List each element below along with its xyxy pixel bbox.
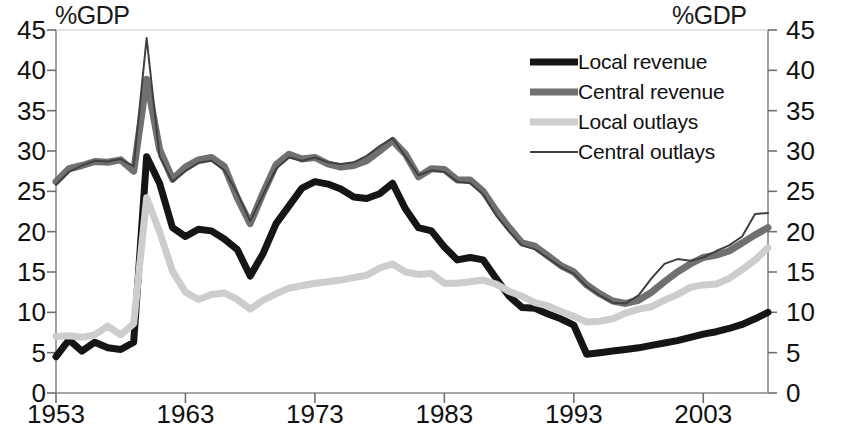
gdp-line-chart: %GDP %GDP 051015202530354045 05101520253…: [0, 0, 846, 433]
legend-item-local-outlays: Local outlays: [528, 110, 724, 134]
y-axis-tick-5: 5: [0, 340, 46, 366]
legend-label: Central revenue: [578, 80, 724, 104]
legend-label: Local outlays: [578, 110, 698, 134]
line-swatch-icon: [528, 115, 578, 129]
y2-axis-tick-35: 35: [786, 98, 832, 124]
y2-axis-tick-40: 40: [786, 57, 832, 83]
y-axis-tick-10: 10: [0, 299, 46, 325]
legend-label: Central outlays: [578, 140, 715, 164]
y-axis-tick-15: 15: [0, 259, 46, 285]
x-axis-tick-1953: 1953: [11, 401, 101, 427]
legend-label: Local revenue: [578, 50, 707, 74]
x-axis-tick-2003: 2003: [658, 401, 748, 427]
x-axis-tick-1963: 1963: [140, 401, 230, 427]
y-axis-tick-45: 45: [0, 17, 46, 43]
y2-axis-tick-45: 45: [786, 17, 832, 43]
y2-axis-tick-20: 20: [786, 219, 832, 245]
y2-axis-tick-0: 0: [786, 380, 832, 406]
y2-axis-tick-15: 15: [786, 259, 832, 285]
line-swatch-icon: [528, 85, 578, 99]
y-axis-tick-40: 40: [0, 57, 46, 83]
y-axis-tick-20: 20: [0, 219, 46, 245]
x-axis-tick-1973: 1973: [270, 401, 360, 427]
y-axis-tick-35: 35: [0, 98, 46, 124]
chart-legend: Local revenueCentral revenueLocal outlay…: [528, 50, 724, 164]
line-swatch-icon: [528, 55, 578, 69]
y2-axis-tick-5: 5: [786, 340, 832, 366]
x-axis-tick-1993: 1993: [529, 401, 619, 427]
y2-axis-tick-30: 30: [786, 138, 832, 164]
y2-axis-tick-25: 25: [786, 178, 832, 204]
legend-item-local-revenue: Local revenue: [528, 50, 724, 74]
series-line-local-revenue: [56, 157, 768, 357]
y2-axis-tick-10: 10: [786, 299, 832, 325]
y-axis-tick-30: 30: [0, 138, 46, 164]
legend-item-central-revenue: Central revenue: [528, 80, 724, 104]
legend-item-central-outlays: Central outlays: [528, 140, 724, 164]
y-axis-tick-25: 25: [0, 178, 46, 204]
x-axis-tick-1983: 1983: [399, 401, 489, 427]
line-swatch-icon: [528, 145, 578, 159]
